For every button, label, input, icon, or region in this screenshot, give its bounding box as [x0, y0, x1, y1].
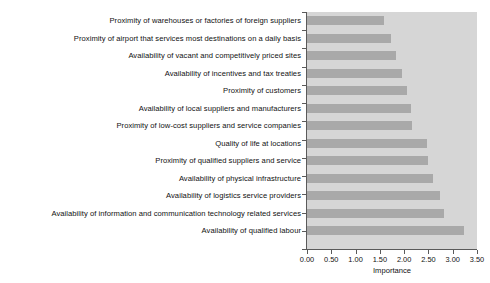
y-axis-tick: [302, 213, 306, 214]
y-axis-tick: [302, 67, 306, 68]
category-label: Proximity of airport that services most …: [74, 30, 301, 48]
bar: [307, 86, 407, 95]
category-label: Quality of life at locations: [215, 135, 301, 153]
bar: [307, 34, 391, 43]
x-axis-tick: [453, 250, 454, 254]
bar: [307, 226, 464, 235]
y-axis-tick: [302, 158, 306, 159]
bar: [307, 174, 433, 183]
x-axis-tick: [428, 250, 429, 254]
x-axis-tick-label: 0.50: [324, 255, 338, 264]
x-axis-tick-label: 2.50: [421, 255, 435, 264]
y-axis-tick: [302, 231, 306, 232]
bar: [307, 121, 412, 130]
bar: [307, 209, 444, 218]
x-axis-title: Importance: [307, 266, 477, 275]
x-axis-tick-label: 3.00: [446, 255, 460, 264]
bar: [307, 139, 427, 148]
x-axis-tick: [404, 250, 405, 254]
y-axis-tick: [302, 12, 306, 13]
category-label: Availability of qualified labour: [202, 222, 301, 240]
y-axis-tick: [302, 103, 306, 104]
bar: [307, 104, 411, 113]
bar: [307, 69, 402, 78]
category-label: Proximity of low-cost suppliers and serv…: [116, 117, 301, 135]
x-axis-tick: [331, 250, 332, 254]
y-axis-tick: [302, 48, 306, 49]
y-axis-tick: [302, 176, 306, 177]
category-label: Availability of information and communic…: [51, 205, 301, 223]
y-axis-tick: [302, 30, 306, 31]
y-axis-tick: [302, 121, 306, 122]
category-label: Proximity of customers: [223, 82, 301, 100]
x-axis-tick-label: 0.00: [300, 255, 314, 264]
plot-area: [307, 12, 477, 249]
category-label: Availability of logistics service provid…: [166, 187, 301, 205]
category-label: Proximity of qualified suppliers and ser…: [155, 152, 301, 170]
x-axis-tick-label: 1.00: [348, 255, 362, 264]
y-axis-tick: [302, 194, 306, 195]
y-axis-tick: [302, 140, 306, 141]
y-axis-line: [306, 12, 307, 250]
x-axis-tick-label: 3.50: [470, 255, 484, 264]
category-label: Availability of incentives and tax treat…: [165, 65, 301, 83]
x-axis-tick: [356, 250, 357, 254]
x-axis-tick: [380, 250, 381, 254]
x-axis-tick-label: 2.00: [397, 255, 411, 264]
category-label: Availability of physical infrastructure: [179, 170, 301, 188]
category-axis-labels: Proximity of warehouses or factories of …: [0, 12, 305, 249]
y-axis-tick: [302, 249, 306, 250]
bar: [307, 156, 428, 165]
y-axis-tick: [302, 85, 306, 86]
x-axis-tick: [307, 250, 308, 254]
bar: [307, 16, 384, 25]
bar: [307, 191, 440, 200]
category-label: Availability of vacant and competitively…: [128, 47, 301, 65]
x-axis-tick: [477, 250, 478, 254]
horizontal-bar-chart: Proximity of warehouses or factories of …: [0, 0, 490, 283]
category-label: Proximity of warehouses or factories of …: [109, 12, 301, 30]
bar: [307, 51, 396, 60]
category-label: Availability of local suppliers and manu…: [139, 100, 301, 118]
x-axis-tick-label: 1.50: [373, 255, 387, 264]
